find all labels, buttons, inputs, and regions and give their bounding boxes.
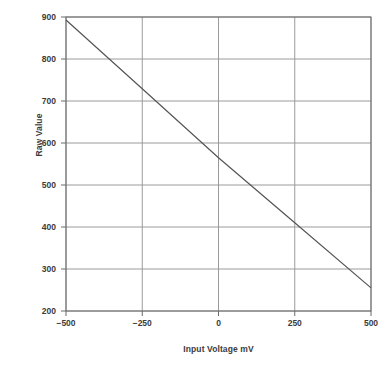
x-tick-label: 500 (348, 319, 391, 328)
plot-area (0, 0, 391, 370)
y-axis-tick-labels: 900800700600500400300200 (26, 0, 56, 370)
x-axis-tick-labels: −500−2500250500 (0, 319, 391, 335)
y-tick-label: 200 (28, 307, 56, 316)
x-tick-label: −250 (119, 319, 165, 328)
y-tick-label: 600 (28, 139, 56, 148)
y-tick-label: 400 (28, 223, 56, 232)
x-tick-label: 250 (272, 319, 318, 328)
axis-ticks (61, 17, 371, 316)
y-tick-label: 700 (28, 97, 56, 106)
line-chart: Raw Value 900800700600500400300200 −500−… (0, 0, 391, 370)
y-tick-label: 300 (28, 265, 56, 274)
x-tick-label: −500 (43, 319, 89, 328)
y-tick-label: 800 (28, 55, 56, 64)
x-tick-label: 0 (196, 319, 242, 328)
x-axis-title: Input Voltage mV (66, 344, 371, 354)
y-tick-label: 900 (28, 13, 56, 22)
y-tick-label: 500 (28, 181, 56, 190)
